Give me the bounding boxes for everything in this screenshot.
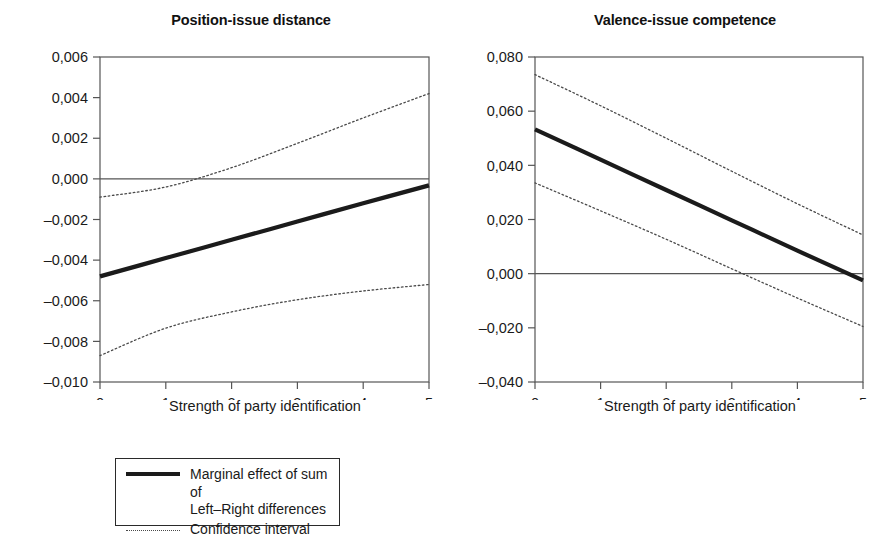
legend-left: Marginal effect of sum of Left–Right dif… [115, 458, 340, 526]
panel-valence-issue-competence: Valence-issue competence 0,0800,0600,040… [437, 0, 887, 558]
series-line-main [535, 129, 863, 280]
y-axis-tick-label: –0,008 [44, 334, 88, 350]
y-axis-tick-label: 0,060 [487, 103, 523, 119]
x-axis-label-right: Strength of party identification [535, 398, 865, 414]
y-axis-tick-label: –0,002 [44, 212, 88, 228]
y-axis-tick-label: 0,006 [52, 49, 88, 65]
y-axis-tick-label: 0,000 [487, 266, 523, 282]
plot-frame [100, 57, 429, 382]
y-axis-tick-label: 0,000 [52, 171, 88, 187]
y-axis-tick-label: 0,040 [487, 158, 523, 174]
y-axis-tick-label: –0,040 [479, 374, 523, 390]
x-axis-label-left: Strength of party identification [100, 398, 430, 414]
legend-row-ci-left: Confidence interval [124, 521, 329, 539]
legend-dotted-line-swatch-icon [124, 521, 182, 538]
plot-area-left: 0,0060,0040,0020,000–0,002–0,004–0,006–0… [0, 0, 450, 400]
series-line-confidence-interval [535, 75, 863, 235]
y-axis-tick-label: –0,010 [44, 374, 88, 390]
plot-frame [535, 57, 863, 382]
legend-row-main-left: Marginal effect of sum of Left–Right dif… [124, 466, 329, 519]
y-axis-tick-label: 0,002 [52, 130, 88, 146]
legend-label-main-left: Marginal effect of sum of Left–Right dif… [190, 466, 329, 519]
y-axis-tick-label: 0,020 [487, 212, 523, 228]
plot-area-right: 0,0800,0600,0400,0200,000–0,020–0,040012… [437, 0, 887, 400]
y-axis-tick-label: 0,080 [487, 49, 523, 65]
y-axis-tick-label: 0,004 [52, 90, 88, 106]
series-line-main [100, 185, 429, 276]
figure-two-panel-marginal-effects: Position-issue distance 0,0060,0040,0020… [0, 0, 887, 558]
series-line-confidence-interval [100, 94, 429, 198]
y-axis-tick-label: –0,020 [479, 320, 523, 336]
legend-solid-line-swatch-icon [124, 466, 182, 483]
series-line-confidence-interval [100, 285, 429, 356]
panel-position-issue-distance: Position-issue distance 0,0060,0040,0020… [0, 0, 450, 558]
y-axis-tick-label: –0,006 [44, 293, 88, 309]
legend-label-ci-left: Confidence interval [190, 521, 310, 539]
y-axis-tick-label: –0,004 [44, 252, 88, 268]
